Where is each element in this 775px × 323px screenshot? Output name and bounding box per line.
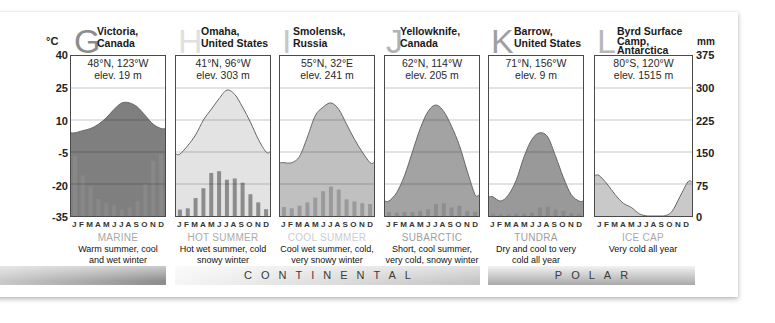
group-label: CONTINENTAL (175, 266, 480, 285)
description-line: snowy winter (163, 255, 283, 266)
left-tick: 10 (28, 114, 68, 128)
station-letter: I (282, 24, 291, 58)
station-letter: L (597, 24, 616, 58)
station-name-line: Yellowknife, (400, 26, 460, 38)
precipitation-bar (337, 190, 341, 216)
precipitation-bar (159, 154, 163, 216)
precipitation-bar (546, 207, 550, 216)
description-line: Hot wet summer, cold (163, 244, 283, 255)
climate-description: Warm summer, cool and wet winter (58, 244, 178, 266)
description-line: Very cold all year (583, 244, 703, 255)
station-location: 41°N, 96°W elev. 303 m (176, 57, 270, 81)
right-tick: 0 (696, 210, 702, 224)
precipitation-bar (499, 214, 503, 216)
precipitation-bar (514, 214, 518, 216)
climate-description: Hot wet summer, cold snowy winter (163, 244, 283, 266)
precipitation-bar (426, 209, 430, 216)
precipitation-bar (89, 186, 93, 216)
elevation: elev. 303 m (176, 69, 270, 81)
precipitation-bar (96, 199, 100, 216)
precipitation-bar (434, 204, 438, 216)
precipitation-bar (418, 211, 422, 216)
precipitation-bar (321, 191, 325, 216)
left-axis-unit: °C (46, 35, 58, 47)
right-axis-unit: mm (697, 36, 715, 47)
precipitation-bar (530, 213, 534, 216)
month-labels: J F M A M J J A S O N D (597, 220, 689, 230)
coordinates: 62°N, 114°W (385, 57, 479, 69)
station-name-line: Smolensk, (293, 26, 346, 38)
climograph-panel-byrd: 80°S, 120°W elev. 1515 m (594, 55, 693, 217)
coordinates: 80°S, 120°W (595, 57, 692, 69)
right-tick: 375 (696, 48, 714, 62)
precipitation-bar (465, 211, 469, 216)
coordinates: 55°N, 32°E (280, 57, 374, 69)
station-name: Smolensk, Russia (293, 26, 346, 49)
climate-type: TUNDRA (481, 232, 591, 244)
temperature-area (595, 175, 692, 216)
station-name: Byrd Surface Camp, Antarctica (617, 27, 682, 56)
temperature-area (176, 90, 270, 216)
elevation: elev. 1515 m (595, 69, 692, 81)
temperature-area (385, 105, 479, 216)
precipitation-bar (104, 203, 108, 216)
group-band-polar: POLAR (488, 266, 695, 285)
elevation: elev. 19 m (71, 69, 165, 81)
left-tick: -35 (28, 210, 68, 224)
station-name-line: Russia (293, 38, 346, 50)
description-line: and wet winter (58, 255, 178, 266)
precipitation-bar (395, 213, 399, 216)
precipitation-bar (577, 214, 581, 216)
temperature-area (71, 102, 165, 216)
precipitation-bar (368, 204, 372, 216)
month-axis-labels: J F M A M J J A S O N D (597, 220, 689, 230)
precipitation-bar (241, 183, 245, 216)
coordinates: 48°N, 123°W (71, 57, 165, 69)
precipitation-bar (178, 210, 182, 216)
precipitation-bar (410, 212, 414, 216)
precipitation-bar (569, 213, 573, 216)
right-tick: 75 (696, 179, 708, 193)
station-name-line: Barrow, (514, 26, 581, 38)
station-name-line: Canada (97, 38, 138, 50)
climate-type: MARINE (63, 232, 173, 244)
month-axis-labels: J F M A M J J A S O N D (490, 220, 582, 230)
station-name-line: United States (514, 38, 581, 50)
left-tick: -20 (28, 179, 68, 193)
precipitation-bar (554, 210, 558, 216)
climograph-panel-yellowknife: 62°N, 114°W elev. 205 m (384, 55, 480, 217)
temperature-area (489, 133, 583, 216)
group-band-marine (0, 266, 166, 285)
description-line: Dry and cool to very (476, 244, 596, 255)
description-line: cold all year (476, 255, 596, 266)
description-line: Warm summer, cool (58, 244, 178, 255)
station-location: 55°N, 32°E elev. 241 m (280, 57, 374, 81)
elevation: elev. 241 m (280, 69, 374, 81)
left-tick: 25 (28, 81, 68, 95)
station-name-line: Canada (400, 38, 460, 50)
precipitation-bar (217, 171, 221, 216)
description-line: very snowy winter (267, 255, 387, 266)
climate-description: Dry and cool to very cold all year (476, 244, 596, 266)
precipitation-bar (403, 212, 407, 216)
climate-description: Cool wet summer, cold, very snowy winter (267, 244, 387, 266)
month-axis-labels: J F M A M J J A S O N D (386, 220, 478, 230)
precipitation-bar (360, 203, 364, 216)
month-axis-labels: J F M A M J J A S O N D (177, 220, 269, 230)
month-axis-labels: J F M A M J J A S O N D (281, 220, 373, 230)
precipitation-bar (225, 180, 229, 216)
station-location: 62°N, 114°W elev. 205 m (385, 57, 479, 81)
precipitation-bar (345, 199, 349, 216)
climate-description: Very cold all year (583, 244, 703, 255)
station-letter: K (491, 24, 514, 58)
precipitation-bar (352, 201, 356, 216)
precipitation-bar (248, 194, 252, 216)
precipitation-bar (136, 201, 140, 216)
precipitation-bar (473, 212, 477, 216)
climograph-panel-omaha: 41°N, 96°W elev. 303 m (175, 55, 271, 217)
station-name: Barrow, United States (514, 26, 581, 49)
precipitation-bar (442, 203, 446, 216)
station-location: 80°S, 120°W elev. 1515 m (595, 57, 692, 81)
group-label: POLAR (488, 266, 695, 285)
description-line: Cool wet summer, cold, (267, 244, 387, 255)
